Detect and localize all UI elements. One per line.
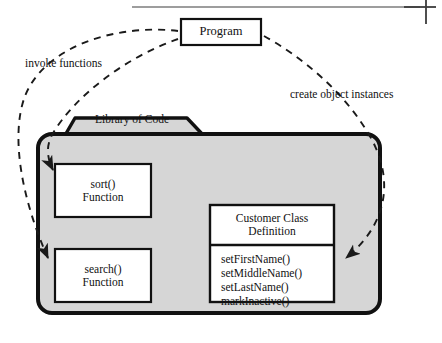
sort-function-line2: Function (58, 191, 148, 204)
create-object-instances-label: create object instances (290, 88, 393, 101)
customer-class-method: setLastName() (221, 280, 333, 294)
customer-class-title: Customer Class Definition (213, 212, 331, 238)
search-function-line2: Function (58, 276, 148, 289)
customer-class-method: setMiddleName() (221, 266, 333, 280)
search-function-label: search() Function (58, 263, 148, 289)
diagram-canvas: Program Library of Code invoke functions… (0, 0, 442, 343)
customer-class-title-line2: Definition (213, 225, 331, 238)
sort-function-line1: sort() (58, 178, 148, 191)
customer-class-title-line1: Customer Class (213, 212, 331, 225)
customer-class-method: markInactive() (221, 294, 333, 308)
customer-class-methods: setFirstName() setMiddleName() setLastNa… (221, 252, 333, 308)
customer-class-method: setFirstName() (221, 252, 333, 266)
library-tab-label: Library of Code (72, 113, 192, 126)
program-label: Program (185, 24, 257, 38)
invoke-functions-label: invoke functions (25, 57, 102, 70)
sort-function-label: sort() Function (58, 178, 148, 204)
search-function-line1: search() (58, 263, 148, 276)
